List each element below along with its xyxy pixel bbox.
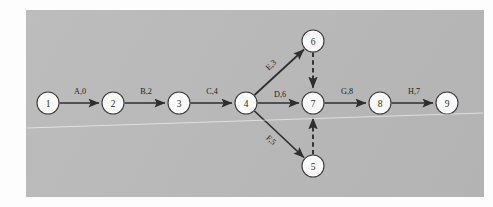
edge-4-6 xyxy=(255,50,305,96)
node-3-label: 3 xyxy=(177,99,182,109)
node-7-label: 7 xyxy=(311,99,316,109)
node-5[interactable]: 5 xyxy=(302,155,324,177)
screenshot-root: 1 2 3 4 5 6 7 xyxy=(0,0,493,207)
node-1-label: 1 xyxy=(46,99,51,109)
node-9-label: 9 xyxy=(445,99,450,109)
node-2[interactable]: 2 xyxy=(102,92,124,114)
node-1[interactable]: 1 xyxy=(37,92,59,114)
edge-label-A: A,0 xyxy=(74,87,86,96)
node-3[interactable]: 3 xyxy=(168,92,190,114)
node-6[interactable]: 6 xyxy=(302,30,324,52)
edge-label-G: G,8 xyxy=(341,87,353,96)
edge-label-H: H,7 xyxy=(408,87,420,96)
node-5-label: 5 xyxy=(311,162,316,172)
edge-label-C: C,4 xyxy=(206,87,218,96)
edge-label-B: B,2 xyxy=(140,87,152,96)
node-4-label: 4 xyxy=(244,99,249,109)
node-4[interactable]: 4 xyxy=(235,92,257,114)
edge-label-D: D,6 xyxy=(274,90,286,99)
node-9[interactable]: 9 xyxy=(436,92,458,114)
edge-label-E: E,3 xyxy=(264,58,278,72)
network-diagram: 1 2 3 4 5 6 7 xyxy=(0,0,493,207)
scan-artifact-line xyxy=(27,113,483,128)
node-6-label: 6 xyxy=(311,37,316,47)
edge-label-F: F,5 xyxy=(264,133,277,146)
node-8-label: 8 xyxy=(378,99,383,109)
node-8[interactable]: 8 xyxy=(369,92,391,114)
node-2-label: 2 xyxy=(111,99,116,109)
node-7[interactable]: 7 xyxy=(302,92,324,114)
edge-4-5 xyxy=(255,111,305,158)
